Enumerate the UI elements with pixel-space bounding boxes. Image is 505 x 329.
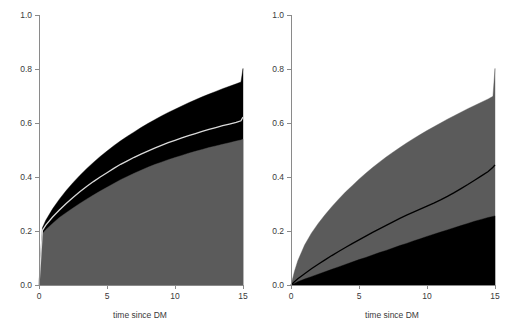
x-tick-label-left-1: 5 [105, 291, 110, 301]
y-tick-label-left-0: 0.0 [20, 280, 32, 290]
x-tick-label-right-1: 5 [357, 291, 362, 301]
panel-left: 0.00.20.40.60.81.0051015 time since DM [0, 0, 252, 329]
plot-area-left [39, 68, 243, 285]
x-tick-label-left-0: 0 [37, 291, 42, 301]
figure-container: 0.00.20.40.60.81.0051015 time since DM 0… [0, 0, 505, 329]
y-tick-label-left-5: 1.0 [20, 10, 32, 20]
y-tick-label-left-2: 0.4 [20, 172, 32, 182]
y-tick-label-left-1: 0.2 [20, 226, 32, 236]
plot-right: 0.00.20.40.60.81.0051015 time since DM [252, 0, 504, 329]
x-tick-label-right-2: 10 [422, 291, 432, 301]
y-tick-label-right-4: 0.8 [272, 64, 284, 74]
x-axis-title-left: time since DM [113, 310, 167, 320]
y-tick-label-right-1: 0.2 [272, 226, 284, 236]
plot-left: 0.00.20.40.60.81.0051015 time since DM [0, 0, 252, 329]
plot-area-right [291, 68, 495, 285]
y-tick-label-right-5: 1.0 [272, 10, 284, 20]
y-tick-label-right-2: 0.4 [272, 172, 284, 182]
x-axis-title-right: time since DM [365, 310, 419, 320]
x-tick-label-left-3: 15 [238, 291, 248, 301]
y-tick-label-right-3: 0.6 [272, 118, 284, 128]
x-tick-label-right-3: 15 [490, 291, 500, 301]
y-tick-label-left-3: 0.6 [20, 118, 32, 128]
y-tick-label-left-4: 0.8 [20, 64, 32, 74]
panel-right: 0.00.20.40.60.81.0051015 time since DM [252, 0, 504, 329]
x-tick-label-left-2: 10 [170, 291, 180, 301]
x-tick-label-right-0: 0 [289, 291, 294, 301]
y-tick-label-right-0: 0.0 [272, 280, 284, 290]
